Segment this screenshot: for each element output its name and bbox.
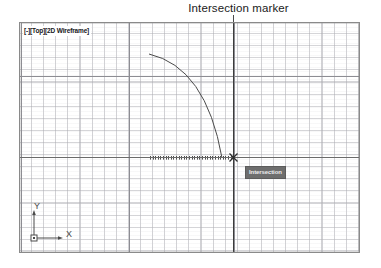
grid-major-vertical-line bbox=[359, 23, 360, 252]
axis-label-y: Y bbox=[34, 201, 40, 211]
rhino-viewport[interactable]: [-][Top][2D Wireframe] Intersection Y X bbox=[19, 22, 360, 253]
intersection-x-marker-icon bbox=[228, 152, 239, 163]
osnap-tooltip: Intersection bbox=[245, 166, 286, 179]
leader-line-icon bbox=[233, 15, 234, 22]
annotation-caption-label: Intersection marker bbox=[188, 2, 288, 14]
snap-tracking-line-shadow bbox=[150, 159, 235, 160]
axis-indicator-icon: Y X bbox=[25, 202, 79, 246]
annotation-caption: Intersection marker bbox=[0, 2, 381, 14]
crosshair-vertical-line bbox=[233, 23, 234, 253]
axis-label-x: X bbox=[66, 229, 72, 239]
arc-curve[interactable] bbox=[149, 54, 222, 158]
crosshair-horizontal-line bbox=[20, 157, 360, 158]
